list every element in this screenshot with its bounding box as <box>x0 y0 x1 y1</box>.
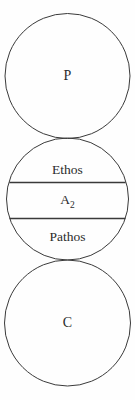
argument-band-subscript: 2 <box>70 200 75 210</box>
rhetoric-circles-diagram: P Ethos A2 Pathos C <box>0 0 135 400</box>
premise-circle-label: P <box>0 69 135 83</box>
pathos-band-label: Pathos <box>0 230 135 244</box>
argument-band-letter: A <box>60 192 70 207</box>
argument-band-label: A2 <box>0 193 135 207</box>
ethos-band-label: Ethos <box>0 163 135 177</box>
conclusion-circle-label: C <box>0 316 135 330</box>
